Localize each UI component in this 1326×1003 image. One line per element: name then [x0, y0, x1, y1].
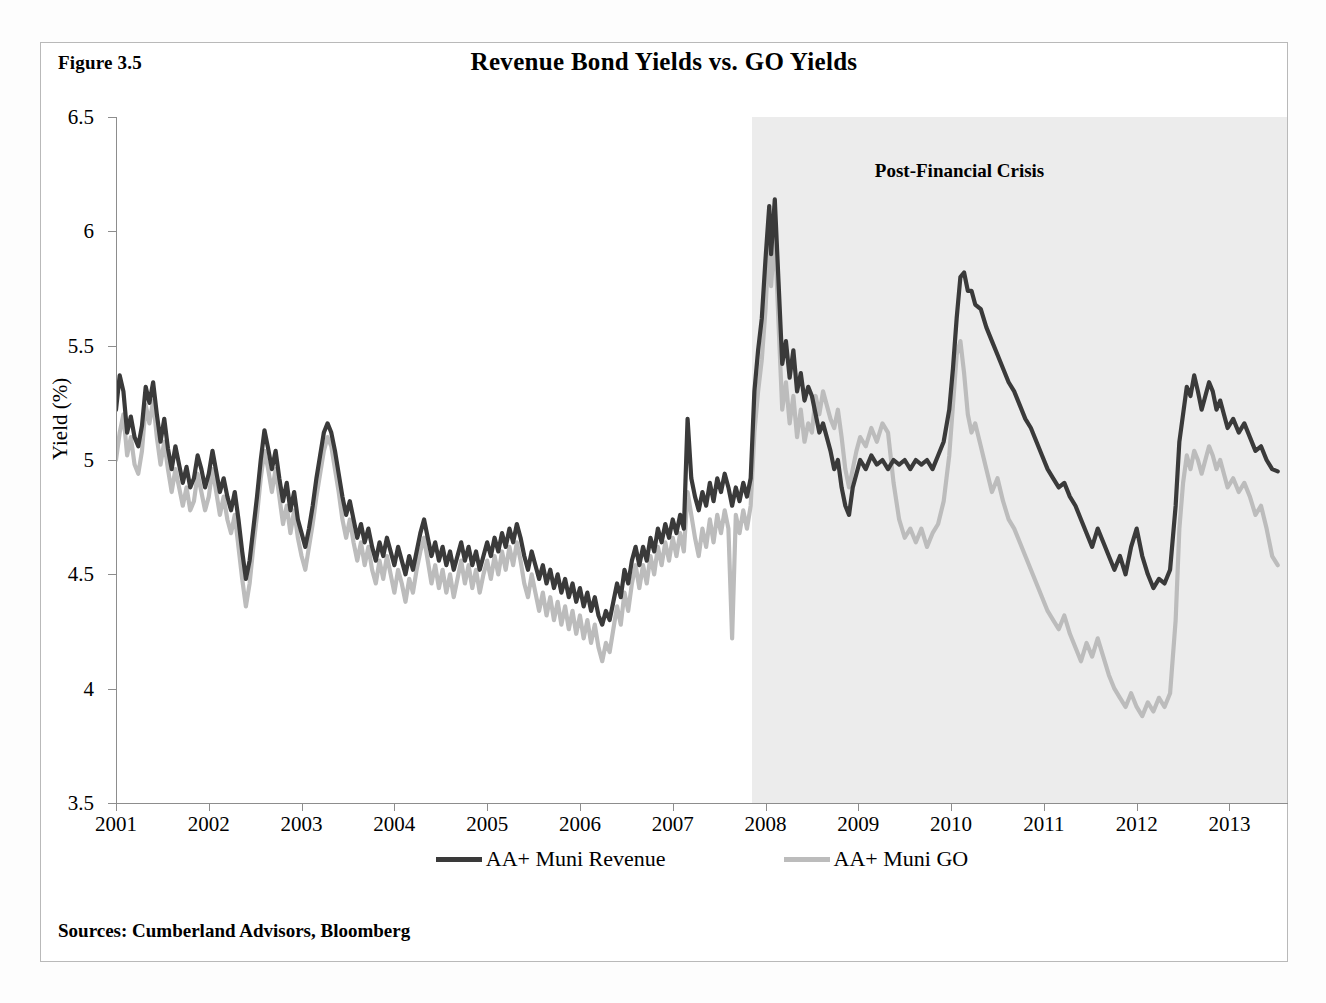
y-tick-label: 6	[84, 219, 95, 244]
y-axis-title: Yield (%)	[48, 378, 73, 460]
x-tick-label: 2002	[188, 812, 230, 837]
x-tick-label: 2012	[1116, 812, 1158, 837]
x-tick	[302, 803, 303, 811]
x-tick	[673, 803, 674, 811]
x-tick-label: 2010	[930, 812, 972, 837]
x-tick	[951, 803, 952, 811]
series-line-go	[116, 231, 1278, 716]
x-tick	[580, 803, 581, 811]
y-tick	[108, 689, 116, 690]
x-tick-label: 2003	[281, 812, 323, 837]
y-tick	[108, 346, 116, 347]
x-axis-line	[116, 803, 1288, 804]
x-tick-label: 2005	[466, 812, 508, 837]
y-axis-line	[116, 117, 117, 804]
x-tick	[766, 803, 767, 811]
x-tick	[116, 803, 117, 811]
y-tick	[108, 231, 116, 232]
series-lines	[116, 117, 1287, 803]
x-tick	[1229, 803, 1230, 811]
x-tick	[209, 803, 210, 811]
x-tick	[1044, 803, 1045, 811]
legend-item-go: AA+ Muni GO	[784, 846, 969, 872]
x-tick-label: 2009	[837, 812, 879, 837]
source-note: Sources: Cumberland Advisors, Bloomberg	[58, 920, 410, 942]
y-tick-label: 3.5	[68, 791, 94, 816]
legend-label-go: AA+ Muni GO	[834, 846, 969, 872]
legend-swatch-go	[784, 857, 830, 862]
x-tick-label: 2013	[1208, 812, 1250, 837]
y-tick-label: 4	[84, 676, 95, 701]
legend-item-revenue: AA+ Muni Revenue	[436, 846, 666, 872]
x-tick-label: 2004	[373, 812, 415, 837]
legend-label-revenue: AA+ Muni Revenue	[486, 846, 666, 872]
x-tick-label: 2007	[652, 812, 694, 837]
x-tick	[858, 803, 859, 811]
x-tick-label: 2001	[95, 812, 137, 837]
y-tick-label: 4.5	[68, 562, 94, 587]
x-tick	[1137, 803, 1138, 811]
y-tick-label: 6.5	[68, 105, 94, 130]
legend-swatch-revenue	[436, 857, 482, 862]
plot-area	[116, 117, 1287, 803]
annotation-post-financial-crisis: Post-Financial Crisis	[875, 160, 1044, 182]
y-tick	[108, 117, 116, 118]
series-line-revenue	[116, 199, 1278, 624]
chart-title: Revenue Bond Yields vs. GO Yields	[40, 48, 1288, 76]
x-tick-label: 2008	[745, 812, 787, 837]
x-tick	[394, 803, 395, 811]
y-tick-label: 5.5	[68, 333, 94, 358]
x-tick	[487, 803, 488, 811]
x-tick-label: 2011	[1023, 812, 1064, 837]
y-tick	[108, 460, 116, 461]
scanned-page: Figure 3.5 Revenue Bond Yields vs. GO Yi…	[0, 0, 1326, 1003]
x-tick-label: 2006	[559, 812, 601, 837]
y-tick	[108, 574, 116, 575]
chart-legend: AA+ Muni Revenue AA+ Muni GO	[116, 846, 1288, 872]
y-tick	[108, 803, 116, 804]
y-tick-label: 5	[84, 448, 95, 473]
